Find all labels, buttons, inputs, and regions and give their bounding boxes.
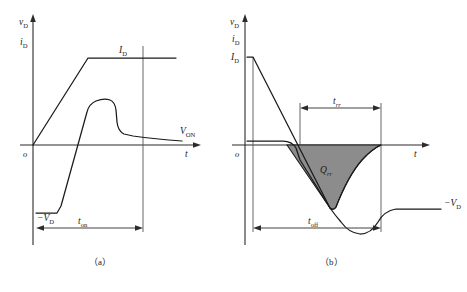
- panel-a-voltage-curve: [36, 99, 182, 213]
- panel-a: vD iD ID VON −VD ton o t （a）: [19, 14, 201, 267]
- panel-a-negative-vd-label: −VD: [37, 213, 54, 225]
- switching-waveform-figure: vD iD ID VON −VD ton o t （a）: [0, 0, 467, 292]
- panel-a-origin-label: o: [23, 149, 27, 159]
- panel-a-time-axis-label: t: [185, 149, 188, 159]
- panel-a-caption: （a）: [89, 257, 111, 267]
- panel-b: vD iD ID trr Qrr toff −VD o t （b）: [230, 14, 461, 267]
- panel-b-trr-label: trr: [333, 96, 341, 108]
- panel-a-horizontal-axis-arrow: [193, 142, 201, 148]
- panel-b-time-axis-label: t: [414, 149, 417, 159]
- panel-b-caption: （b）: [320, 257, 343, 267]
- panel-a-id-axis-label: iD: [20, 37, 28, 49]
- panel-b-toff-arrow-right: [373, 225, 381, 231]
- panel-a-current-curve: [33, 58, 176, 145]
- figure-svg: vD iD ID VON −VD ton o t （a）: [0, 0, 467, 292]
- panel-b-ID-level-label: ID: [230, 52, 239, 64]
- panel-a-vd-axis-label: vD: [19, 17, 28, 29]
- panel-b-trr-arrow-right: [373, 105, 381, 111]
- panel-a-ID-plateau-label: ID: [118, 45, 127, 57]
- panel-a-ton-label: ton: [78, 216, 88, 228]
- panel-b-id-axis-label: iD: [232, 34, 240, 46]
- panel-b-negative-vd-label: −VD: [444, 198, 461, 210]
- panel-b-toff-label: toff: [308, 216, 319, 228]
- panel-b-current-curve: [247, 57, 381, 209]
- panel-b-toff-arrow-left: [253, 225, 261, 231]
- panel-b-vertical-axis-arrow: [242, 14, 248, 22]
- panel-a-von-label: VON: [180, 126, 196, 138]
- panel-a-ton-arrow-left: [36, 225, 44, 231]
- panel-b-origin-label: o: [235, 149, 239, 159]
- panel-a-ton-arrow-right: [135, 225, 143, 231]
- panel-b-trr-arrow-left: [300, 105, 308, 111]
- panel-b-vd-axis-label: vD: [230, 17, 239, 29]
- panel-a-vertical-axis-arrow: [30, 14, 36, 22]
- panel-b-horizontal-axis-arrow: [422, 142, 430, 148]
